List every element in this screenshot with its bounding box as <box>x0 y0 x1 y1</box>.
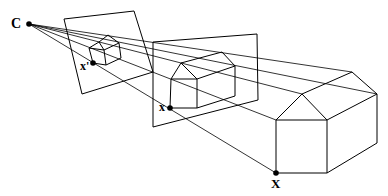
label-x: x <box>159 101 165 113</box>
label-camera-center: C <box>11 17 21 31</box>
house-world <box>276 72 377 173</box>
image-plane-far <box>153 34 258 127</box>
point-x-prime-dot <box>90 60 96 66</box>
image-plane-near <box>64 11 153 94</box>
label-x-prime: x' <box>80 60 89 72</box>
projection-diagram: C x' x X <box>0 0 388 196</box>
point-x-dot <box>167 105 173 111</box>
house-medium <box>170 52 235 108</box>
label-X: X <box>271 177 280 190</box>
diagram-canvas <box>0 0 388 196</box>
point-X-dot <box>273 170 279 176</box>
camera-center-dot <box>26 21 32 27</box>
